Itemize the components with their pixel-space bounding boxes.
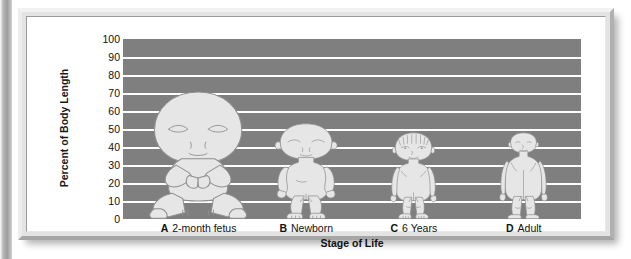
x-axis-tick-labels: A2-month fetusBNewbornC6 YearsDAdult [123, 222, 581, 238]
y-tick-label: 80 [82, 70, 120, 80]
x-tick-text: Adult [518, 222, 542, 234]
y-axis-tick-labels: 1009080706050403020100 [82, 37, 120, 221]
body-figure-d [480, 39, 567, 219]
body-figure-b [258, 39, 354, 219]
y-tick-label: 70 [82, 88, 120, 98]
x-axis-title: Stage of Life [123, 237, 581, 249]
x-tick-letter: D [506, 222, 514, 234]
y-tick-label: 40 [82, 142, 120, 152]
x-tick-text: 6 Years [402, 222, 437, 234]
x-tick-letter: A [161, 222, 169, 234]
x-tick-label-b: BNewborn [279, 222, 333, 235]
y-tick-label: 20 [82, 178, 120, 188]
x-tick-text: 2-month fetus [172, 222, 236, 234]
x-tick-letter: B [279, 222, 287, 234]
x-tick-label-a: A2-month fetus [161, 222, 237, 235]
y-tick-label: 0 [82, 214, 120, 224]
body-figures-group [123, 39, 581, 219]
figure-page: Percent of Body Length 10090807060504030… [0, 0, 631, 259]
body-figure-c [370, 39, 457, 219]
y-axis-title: Percent of Body Length [57, 55, 71, 201]
y-tick-label: 10 [82, 196, 120, 206]
y-tick-label: 50 [82, 124, 120, 134]
y-tick-label: 30 [82, 160, 120, 170]
y-tick-label: 60 [82, 106, 120, 116]
y-axis-title-text: Percent of Body Length [58, 69, 70, 187]
x-tick-letter: C [391, 222, 399, 234]
x-tick-label-d: DAdult [506, 222, 542, 235]
page-edge-band [0, 0, 12, 259]
figure-frame-inner: Percent of Body Length 10090807060504030… [26, 16, 606, 232]
x-tick-text: Newborn [291, 222, 333, 234]
body-figure-a [134, 39, 262, 219]
plot-area [123, 39, 581, 219]
y-tick-label: 90 [82, 52, 120, 62]
figure-frame: Percent of Body Length 10090807060504030… [18, 8, 614, 240]
x-tick-label-c: C6 Years [391, 222, 438, 235]
y-tick-label: 100 [82, 34, 120, 44]
